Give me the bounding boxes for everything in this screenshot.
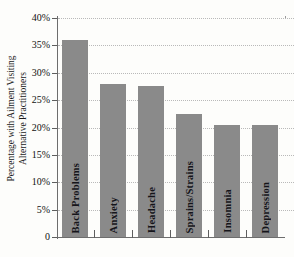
bar-category-label: Insomnia bbox=[222, 189, 233, 233]
bar-label-wrap: Back Problems bbox=[62, 83, 88, 233]
bar: Anxiety bbox=[100, 84, 126, 237]
x-axis-line bbox=[57, 237, 285, 238]
bar-label-wrap: Depression bbox=[252, 83, 278, 233]
chart-title bbox=[56, 0, 256, 2]
bar-category-label: Sprains/Strains bbox=[184, 161, 195, 233]
bar-chart-figure: Percentage with Ailment Visiting Alterna… bbox=[0, 0, 294, 257]
bar: Insomnia bbox=[214, 125, 240, 237]
bar-category-label: Anxiety bbox=[108, 197, 119, 233]
bar-label-wrap: Anxiety bbox=[100, 83, 126, 233]
bar-label-wrap: Insomnia bbox=[214, 83, 240, 233]
y-axis-label: 10% bbox=[10, 177, 50, 187]
x-axis-tick bbox=[170, 230, 171, 238]
bar-category-label: Depression bbox=[260, 182, 271, 233]
bar: Depression bbox=[252, 125, 278, 237]
y-axis-label: 40% bbox=[10, 13, 50, 23]
plot-frame-right bbox=[285, 16, 286, 18]
y-axis-title: Percentage with Ailment Visiting Alterna… bbox=[2, 0, 32, 237]
x-axis-tick bbox=[132, 230, 133, 238]
y-axis-label: 0 bbox=[10, 232, 50, 242]
x-axis-tick bbox=[208, 230, 209, 238]
bar: Back Problems bbox=[62, 40, 88, 237]
plot-area: Back ProblemsAnxietyHeadacheSprains/Stra… bbox=[57, 18, 285, 237]
bar-label-wrap: Sprains/Strains bbox=[176, 83, 202, 233]
y-axis-label: 5% bbox=[10, 205, 50, 215]
bar-label-wrap: Headache bbox=[138, 83, 164, 233]
bar: Headache bbox=[138, 86, 164, 237]
y-axis-label: 25% bbox=[10, 95, 50, 105]
bar-category-label: Back Problems bbox=[70, 163, 81, 233]
y-axis-label: 30% bbox=[10, 68, 50, 78]
bar: Sprains/Strains bbox=[176, 114, 202, 237]
x-axis-tick bbox=[94, 230, 95, 238]
y-axis-label: 35% bbox=[10, 40, 50, 50]
x-axis-tick bbox=[246, 230, 247, 238]
y-axis-label: 15% bbox=[10, 150, 50, 160]
bar-category-label: Headache bbox=[146, 187, 157, 233]
y-axis-label: 20% bbox=[10, 123, 50, 133]
